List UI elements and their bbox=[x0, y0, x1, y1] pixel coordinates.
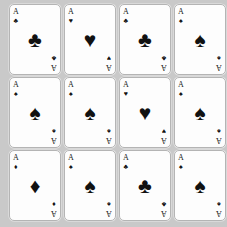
playing-card[interactable]: A♥♥A♥ bbox=[119, 77, 171, 148]
card-corner-bottom-right: A♥ bbox=[161, 128, 167, 144]
card-rank-label: A bbox=[106, 63, 112, 71]
card-rank-label: A bbox=[161, 63, 167, 71]
playing-card[interactable]: A♥♥A♥ bbox=[64, 4, 116, 75]
card-corner-top-left: A♣ bbox=[123, 8, 129, 24]
card-corner-bottom-right: A♦ bbox=[51, 201, 57, 217]
card-suit-icon: ♣ bbox=[124, 17, 129, 24]
playing-card[interactable]: A♠♠A♠ bbox=[174, 77, 226, 148]
card-suit-icon: ♣ bbox=[14, 17, 19, 24]
card-corner-bottom-right: A♠ bbox=[51, 128, 57, 144]
card-corner-top-left: A♣ bbox=[13, 8, 19, 24]
card-rank-label: A bbox=[178, 81, 184, 89]
card-corner-bottom-right: A♠ bbox=[106, 128, 112, 144]
card-center-suit-icon: ♣ bbox=[28, 28, 42, 49]
card-corner-top-left: A♠ bbox=[178, 154, 184, 170]
card-suit-icon: ♠ bbox=[69, 90, 73, 97]
card-suit-icon: ♥ bbox=[162, 128, 166, 135]
card-corner-top-left: A♥ bbox=[123, 81, 129, 97]
card-center-suit-icon: ♣ bbox=[138, 174, 152, 195]
card-suit-icon: ♣ bbox=[162, 201, 167, 208]
card-rank-label: A bbox=[123, 81, 129, 89]
card-grid: A♣♣A♣A♥♥A♥A♣♣A♣A♠♠A♠A♠♠A♠A♠♠A♠A♥♥A♥A♠♠A♠… bbox=[0, 0, 227, 227]
card-suit-icon: ♣ bbox=[52, 55, 57, 62]
card-rank-label: A bbox=[51, 209, 57, 217]
card-suit-icon: ♣ bbox=[162, 55, 167, 62]
card-corner-top-left: A♥ bbox=[68, 8, 74, 24]
card-suit-icon: ♥ bbox=[69, 17, 73, 24]
card-corner-bottom-right: A♠ bbox=[106, 201, 112, 217]
card-suit-icon: ♠ bbox=[217, 128, 221, 135]
card-center-suit-icon: ♠ bbox=[194, 174, 205, 195]
playing-card[interactable]: A♠♠A♠ bbox=[64, 150, 116, 221]
card-rank-label: A bbox=[106, 136, 112, 144]
card-rank-label: A bbox=[13, 81, 19, 89]
card-corner-top-left: A♣ bbox=[123, 154, 129, 170]
card-suit-icon: ♣ bbox=[124, 163, 129, 170]
card-center-suit-icon: ♥ bbox=[139, 101, 151, 122]
card-suit-icon: ♠ bbox=[107, 201, 111, 208]
card-suit-icon: ♥ bbox=[124, 90, 128, 97]
card-rank-label: A bbox=[51, 136, 57, 144]
playing-card[interactable]: A♠♠A♠ bbox=[9, 77, 61, 148]
card-corner-top-left: A♠ bbox=[13, 81, 19, 97]
card-center-suit-icon: ♥ bbox=[84, 28, 96, 49]
card-corner-bottom-right: A♣ bbox=[161, 201, 167, 217]
card-center-suit-icon: ♠ bbox=[84, 101, 95, 122]
card-rank-label: A bbox=[68, 8, 74, 16]
card-suit-icon: ♠ bbox=[69, 163, 73, 170]
card-rank-label: A bbox=[161, 209, 167, 217]
card-corner-bottom-right: A♠ bbox=[216, 128, 222, 144]
card-rank-label: A bbox=[178, 154, 184, 162]
card-corner-bottom-right: A♥ bbox=[106, 55, 112, 71]
card-rank-label: A bbox=[216, 136, 222, 144]
card-center-suit-icon: ♠ bbox=[84, 174, 95, 195]
card-suit-icon: ♠ bbox=[179, 90, 183, 97]
card-suit-icon: ♠ bbox=[107, 128, 111, 135]
card-rank-label: A bbox=[216, 209, 222, 217]
card-corner-bottom-right: A♣ bbox=[161, 55, 167, 71]
card-corner-bottom-right: A♣ bbox=[51, 55, 57, 71]
card-corner-top-left: A♠ bbox=[68, 154, 74, 170]
card-suit-icon: ♠ bbox=[179, 163, 183, 170]
card-suit-icon: ♦ bbox=[14, 163, 18, 170]
playing-card[interactable]: A♦♦A♦ bbox=[9, 150, 61, 221]
card-corner-top-left: A♦ bbox=[13, 154, 19, 170]
card-suit-icon: ♠ bbox=[14, 90, 18, 97]
card-corner-bottom-right: A♠ bbox=[216, 201, 222, 217]
card-corner-top-left: A♠ bbox=[68, 81, 74, 97]
card-corner-top-left: A♠ bbox=[178, 8, 184, 24]
card-rank-label: A bbox=[68, 154, 74, 162]
card-rank-label: A bbox=[13, 154, 19, 162]
card-rank-label: A bbox=[51, 63, 57, 71]
card-rank-label: A bbox=[123, 154, 129, 162]
card-rank-label: A bbox=[68, 81, 74, 89]
card-rank-label: A bbox=[216, 63, 222, 71]
card-center-suit-icon: ♠ bbox=[194, 28, 205, 49]
playing-card[interactable]: A♠♠A♠ bbox=[174, 150, 226, 221]
card-suit-icon: ♠ bbox=[52, 128, 56, 135]
card-rank-label: A bbox=[123, 8, 129, 16]
card-corner-bottom-right: A♠ bbox=[216, 55, 222, 71]
playing-card[interactable]: A♠♠A♠ bbox=[174, 4, 226, 75]
playing-card[interactable]: A♣♣A♣ bbox=[9, 4, 61, 75]
card-suit-icon: ♠ bbox=[217, 201, 221, 208]
card-center-suit-icon: ♦ bbox=[30, 174, 41, 195]
card-suit-icon: ♦ bbox=[52, 201, 56, 208]
card-suit-icon: ♠ bbox=[179, 17, 183, 24]
playing-card[interactable]: A♠♠A♠ bbox=[64, 77, 116, 148]
card-rank-label: A bbox=[106, 209, 112, 217]
card-corner-top-left: A♠ bbox=[178, 81, 184, 97]
card-rank-label: A bbox=[161, 136, 167, 144]
card-center-suit-icon: ♠ bbox=[194, 101, 205, 122]
card-center-suit-icon: ♠ bbox=[29, 101, 40, 122]
playing-card[interactable]: A♣♣A♣ bbox=[119, 150, 171, 221]
card-suit-icon: ♠ bbox=[217, 55, 221, 62]
card-rank-label: A bbox=[13, 8, 19, 16]
playing-card[interactable]: A♣♣A♣ bbox=[119, 4, 171, 75]
card-center-suit-icon: ♣ bbox=[138, 28, 152, 49]
card-rank-label: A bbox=[178, 8, 184, 16]
card-suit-icon: ♥ bbox=[107, 55, 111, 62]
